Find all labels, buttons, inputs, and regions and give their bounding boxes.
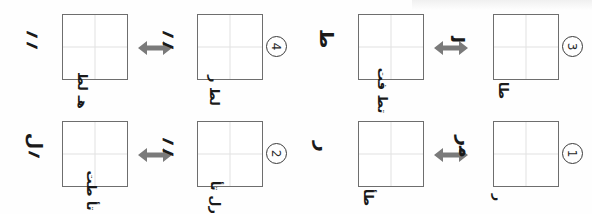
right-item-under-marks: ﺭﻝ ﺗﺄ <box>199 191 232 204</box>
panel-row-bottom: ؍ﻝ ﺝ ﺗﺄ ﻃﺖ ؍؍ ﺭﻝ ﺗﺄ <box>0 107 592 214</box>
left-item-under-marks: ﻃﺄ <box>360 191 377 204</box>
left-item-under-marks: ﺝ ﺗﺄ ﻃﺖ <box>64 191 118 204</box>
left-item-side-mark: ﻃ <box>318 30 336 49</box>
comparison-panel[interactable]: ﺭ ﻃﺄ ﻣﺭ ﺭ <box>296 107 592 214</box>
panel-index-badge: 4 <box>266 36 287 57</box>
left-item-grid-box[interactable] <box>358 121 424 187</box>
left-item-side-mark: ؍؍ <box>22 30 44 49</box>
left-item-grid-box[interactable] <box>62 14 128 80</box>
panel-index-badge: 1 <box>562 143 583 164</box>
right-item-side-mark: ؍؍ <box>158 30 180 49</box>
panel-index-label: 2 <box>270 150 284 158</box>
right-item-grid-box[interactable] <box>197 121 263 187</box>
left-item-under-marks: ﻫـ ﻟﻂ <box>64 84 101 97</box>
panel-row-top: ؍؍ ﻫـ ﻟﻂ ؍؍ ﻟﻂ ﺭ <box>0 0 592 107</box>
left-item-side-mark: ﺭ <box>318 137 329 156</box>
grid-horizontal-line <box>198 47 262 48</box>
left-item-side-mark: ؍ﻝ <box>22 137 50 156</box>
right-item-side-mark: ؍؍ <box>158 137 180 156</box>
right-item-under-marks: ﻟﻂ ﺭ <box>199 84 230 97</box>
right-item-grid-box[interactable] <box>493 14 559 80</box>
left-item-grid-box[interactable] <box>358 14 424 80</box>
grid-horizontal-line <box>63 47 127 48</box>
right-item-side-mark: ﻣﺭ <box>454 137 477 156</box>
right-item-side-mark: ﻟ <box>454 30 461 49</box>
worksheet-sheet: ؍؍ ﻫـ ﻟﻂ ؍؍ ﻟﻂ ﺭ <box>0 0 592 214</box>
right-item-under-marks: ﺭ <box>495 191 502 204</box>
right-item-grid-box[interactable] <box>197 14 263 80</box>
grid-horizontal-line <box>494 47 558 48</box>
grid-horizontal-line <box>359 47 423 48</box>
grid-horizontal-line <box>494 154 558 155</box>
grid-horizontal-line <box>63 154 127 155</box>
grid-horizontal-line <box>198 154 262 155</box>
panel-index-label: 3 <box>566 43 580 51</box>
right-item-under-marks: ﻃﺎ <box>495 84 512 97</box>
left-item-under-marks: ﺗﻂ ﻓﺖ <box>360 84 406 97</box>
grid-horizontal-line <box>359 154 423 155</box>
comparison-panel[interactable]: ﻃ ﺗﻂ ﻓﺖ ﻟ ﻃﺎ <box>296 0 592 107</box>
right-item-grid-box[interactable] <box>493 121 559 187</box>
comparison-panel[interactable]: ؍؍ ﻫـ ﻟﻂ ؍؍ ﻟﻂ ﺭ <box>0 0 296 107</box>
panel-index-label: 4 <box>270 43 284 51</box>
panel-index-badge: 3 <box>562 36 583 57</box>
comparison-panel[interactable]: ؍ﻝ ﺝ ﺗﺄ ﻃﺖ ؍؍ ﺭﻝ ﺗﺄ <box>0 107 296 214</box>
panel-index-badge: 2 <box>266 143 287 164</box>
panel-index-label: 1 <box>566 150 580 158</box>
